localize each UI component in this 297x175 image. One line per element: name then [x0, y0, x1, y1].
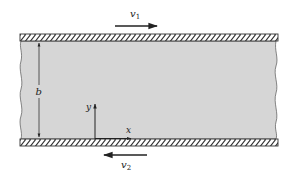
y-axis-label: y: [85, 102, 92, 112]
bottom-plate: [20, 139, 278, 146]
gap-label: b: [36, 86, 42, 97]
v1-label: v1: [130, 8, 140, 21]
fluid-region: [20, 41, 277, 139]
couette-flow-diagram: v1 v2 b y x: [0, 0, 297, 175]
top-plate: [20, 34, 278, 41]
v2-label: v2: [121, 159, 131, 172]
x-axis-label: x: [126, 125, 131, 135]
